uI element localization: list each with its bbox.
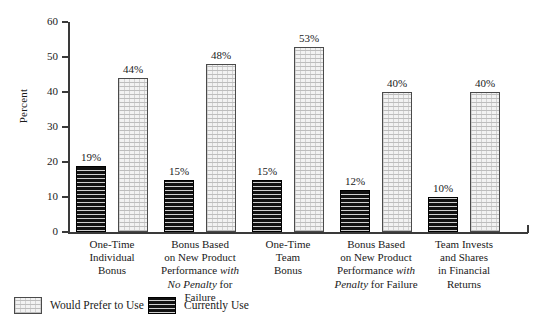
legend-label: Would Prefer to Use xyxy=(50,299,144,312)
x-axis-label-line: in Financial xyxy=(415,264,513,277)
x-axis-label-line: on New Product xyxy=(327,251,425,264)
y-axis-tick xyxy=(62,56,68,58)
x-axis-label-line: Bonus Based xyxy=(327,238,425,251)
bar-value-label: 48% xyxy=(198,50,244,61)
bar-value-label: 12% xyxy=(332,176,378,187)
legend-swatch-light xyxy=(14,297,42,314)
x-axis-label-line: One-Time xyxy=(239,238,337,251)
bar-value-label: 10% xyxy=(420,183,466,194)
bar-light-4 xyxy=(470,92,500,232)
bar-value-label: 19% xyxy=(68,152,114,163)
x-axis-label-line: Bonus Based xyxy=(151,238,249,251)
x-axis-label-line: Team xyxy=(239,251,337,264)
bar-value-label: 40% xyxy=(462,78,508,89)
y-axis-tick xyxy=(62,21,68,23)
bar-light-2 xyxy=(294,47,324,233)
x-axis-label-line: Individual xyxy=(63,251,161,264)
legend-label: Currently Use xyxy=(184,299,249,312)
bar-value-label: 40% xyxy=(374,78,420,89)
x-axis-label-line: Team Invests xyxy=(415,238,513,251)
legend-swatch-dark xyxy=(148,297,176,314)
x-axis-line xyxy=(68,232,528,234)
x-axis-label-line: on New Product xyxy=(151,251,249,264)
y-axis-tick xyxy=(62,196,68,198)
x-axis-label-line: and Shares xyxy=(415,251,513,264)
x-axis-label-0: One-TimeIndividualBonus xyxy=(63,238,161,278)
x-axis-label-line: One-Time xyxy=(63,238,161,251)
y-axis-tick xyxy=(62,126,68,128)
bar-light-1 xyxy=(206,64,236,232)
y-axis-tick-label: 40 xyxy=(0,86,58,97)
y-axis-tick-label: 60 xyxy=(0,16,58,27)
y-axis-line xyxy=(68,22,70,233)
bar-dark-3 xyxy=(340,190,370,232)
x-axis-label-line: Bonus xyxy=(239,264,337,277)
x-axis-end-tick xyxy=(527,225,529,233)
bar-dark-0 xyxy=(76,166,106,233)
bar-dark-2 xyxy=(252,180,282,233)
bar-dark-1 xyxy=(164,180,194,233)
y-axis-tick-label: 20 xyxy=(0,156,58,167)
x-axis-label-line: Returns xyxy=(415,278,513,291)
y-axis-tick-label: 10 xyxy=(0,191,58,202)
x-axis-label-line: Performance with xyxy=(151,264,249,277)
x-axis-label-line: Penalty for Failure xyxy=(327,278,425,291)
bar-value-label: 15% xyxy=(244,166,290,177)
y-axis-tick xyxy=(62,231,68,233)
bar-light-0 xyxy=(118,78,148,232)
x-axis-label-3: Bonus Basedon New ProductPerformance wit… xyxy=(327,238,425,291)
bar-value-label: 53% xyxy=(286,33,332,44)
x-axis-label-1: Bonus Basedon New ProductPerformance wit… xyxy=(151,238,249,304)
y-axis-tick-label: 0 xyxy=(0,226,58,237)
x-axis-label-line: Performance with xyxy=(327,264,425,277)
bar-value-label: 44% xyxy=(110,64,156,75)
y-axis-tick-label: 50 xyxy=(0,51,58,62)
y-axis-tick-label: 30 xyxy=(0,121,58,132)
bar-value-label: 15% xyxy=(156,166,202,177)
x-axis-label-line: Bonus xyxy=(63,264,161,277)
x-axis-label-4: Team Investsand Sharesin FinancialReturn… xyxy=(415,238,513,291)
bar-dark-4 xyxy=(428,197,458,232)
x-axis-label-2: One-TimeTeamBonus xyxy=(239,238,337,278)
bar-chart: Percent 0102030405060 19%44%15%48%15%53%… xyxy=(0,0,534,326)
bar-light-3 xyxy=(382,92,412,232)
y-axis-tick xyxy=(62,91,68,93)
